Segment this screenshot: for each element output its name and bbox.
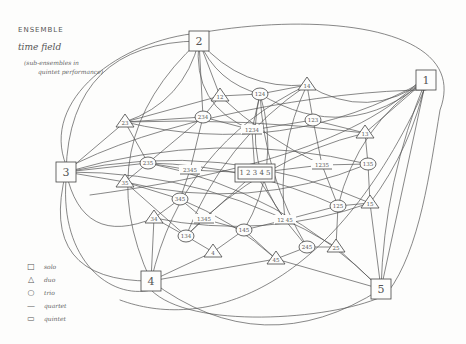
node-trio-124: 124 bbox=[252, 88, 268, 100]
edge-arc bbox=[151, 290, 381, 317]
node-label: 124 bbox=[255, 91, 266, 97]
edge bbox=[370, 203, 381, 289]
node-quartet-1245: 12 45 bbox=[274, 215, 296, 224]
node-duo-12: 12 bbox=[211, 88, 229, 101]
underline-icon: — bbox=[24, 301, 38, 310]
edge-arc bbox=[66, 180, 151, 292]
edge bbox=[199, 41, 307, 86]
node-label: 1345 bbox=[197, 216, 211, 222]
node-label: 2 bbox=[196, 35, 203, 48]
node-label: 5 bbox=[378, 283, 385, 296]
node-label: 35 bbox=[122, 180, 129, 186]
node-quartet-1234: 1234 bbox=[241, 125, 263, 134]
node-label: 14 bbox=[304, 83, 311, 89]
node-label: 125 bbox=[333, 203, 344, 209]
node-solo-5: 5 bbox=[371, 279, 391, 299]
node-label: 45 bbox=[273, 257, 280, 263]
legend-item-trio: ○ trio bbox=[24, 286, 67, 299]
node-duo-15: 15 bbox=[361, 195, 379, 208]
node-label: 2345 bbox=[183, 167, 197, 173]
node-label: 4 bbox=[211, 250, 215, 256]
legend-item-duo: △ duo bbox=[24, 273, 67, 286]
ensemble-graph: 1234512142313353444525151242341232351353… bbox=[0, 0, 466, 344]
edge bbox=[60, 172, 151, 281]
edge bbox=[125, 41, 199, 122]
double-box-icon: ▭ bbox=[24, 314, 38, 323]
nodes: 1234512142313353444525151242341232351353… bbox=[56, 31, 436, 299]
node-label: 1 bbox=[423, 74, 430, 87]
node-label: 145 bbox=[239, 227, 250, 233]
legend-item-quartet: — quartet bbox=[24, 299, 67, 312]
node-quartet-1345: 1345 bbox=[193, 214, 215, 223]
edge bbox=[180, 199, 276, 259]
node-label: 135 bbox=[363, 161, 374, 167]
node-solo-4: 4 bbox=[141, 271, 161, 291]
node-label: 123 bbox=[308, 117, 319, 123]
node-label: 245 bbox=[302, 244, 313, 250]
node-label: 1235 bbox=[315, 162, 329, 168]
edge-arc bbox=[61, 33, 199, 165]
node-solo-3: 3 bbox=[56, 162, 76, 182]
node-label: 23 bbox=[122, 120, 129, 126]
edge bbox=[128, 41, 199, 281]
legend-item-quintet: ▭ quintet bbox=[24, 312, 67, 325]
node-trio-135: 135 bbox=[360, 158, 376, 170]
node-trio-234: 234 bbox=[195, 111, 211, 123]
node-solo-2: 2 bbox=[189, 31, 209, 51]
edge bbox=[199, 41, 203, 117]
edge bbox=[66, 172, 336, 247]
edge bbox=[66, 172, 154, 227]
legend: □ solo △ duo ○ trio — quartet ▭ quintet bbox=[24, 260, 67, 325]
edge bbox=[148, 117, 203, 163]
node-label: 34 bbox=[151, 216, 158, 222]
node-label: 134 bbox=[181, 233, 192, 239]
node-trio-125: 125 bbox=[330, 200, 346, 212]
node-trio-145: 145 bbox=[236, 224, 252, 236]
edge bbox=[151, 85, 307, 281]
edge bbox=[190, 117, 203, 170]
node-quartet-1235: 1235 bbox=[311, 160, 333, 169]
node-trio-134: 134 bbox=[178, 230, 194, 242]
edge bbox=[151, 259, 276, 281]
edge bbox=[338, 80, 426, 206]
node-duo-35: 35 bbox=[116, 174, 134, 187]
node-duo-34: 34 bbox=[145, 210, 163, 223]
node-label: 15 bbox=[367, 201, 374, 207]
node-trio-235: 235 bbox=[140, 157, 156, 169]
edge-arc bbox=[199, 24, 444, 292]
node-label: 1 2 3 4 5 bbox=[239, 169, 270, 177]
node-trio-345: 345 bbox=[172, 193, 188, 205]
node-label: 345 bbox=[175, 196, 186, 202]
square-icon: □ bbox=[24, 262, 38, 271]
triangle-icon: △ bbox=[24, 275, 38, 284]
node-trio-245: 245 bbox=[299, 241, 315, 253]
node-quintet-12345: 1 2 3 4 5 bbox=[235, 164, 275, 182]
node-solo-1: 1 bbox=[416, 70, 436, 90]
node-label: 235 bbox=[143, 160, 154, 166]
edge bbox=[151, 281, 381, 325]
node-label: 13 bbox=[362, 131, 369, 137]
node-label: 12 45 bbox=[277, 217, 293, 223]
node-trio-123: 123 bbox=[305, 114, 321, 126]
node-quartet-2345: 2345 bbox=[179, 165, 201, 174]
node-label: 1234 bbox=[245, 127, 259, 133]
edge bbox=[381, 80, 426, 289]
node-label: 3 bbox=[63, 166, 70, 179]
node-label: 4 bbox=[148, 275, 155, 288]
circle-icon: ○ bbox=[24, 288, 38, 297]
legend-item-solo: □ solo bbox=[24, 260, 67, 273]
node-duo-25: 25 bbox=[327, 239, 345, 252]
edge bbox=[66, 163, 148, 172]
node-label: 25 bbox=[333, 245, 340, 251]
node-duo-4b: 4 bbox=[204, 244, 222, 257]
node-duo-14: 14 bbox=[298, 77, 316, 90]
node-label: 234 bbox=[198, 114, 209, 120]
edge bbox=[220, 96, 322, 165]
node-label: 12 bbox=[217, 94, 224, 100]
